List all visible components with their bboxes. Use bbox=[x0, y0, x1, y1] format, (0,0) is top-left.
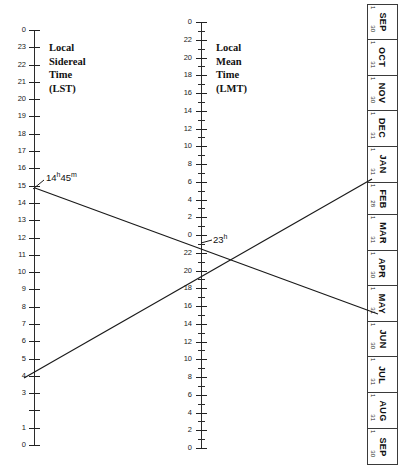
calendar-day-last: 31 bbox=[370, 168, 376, 175]
lst-tick-label: 17 bbox=[4, 147, 26, 155]
calendar-day-last: 31 bbox=[370, 237, 376, 244]
superscript-m: m bbox=[71, 171, 77, 178]
lmt-reading-annotation: 23h bbox=[213, 234, 227, 245]
lmt-tick-label: 22 bbox=[170, 36, 192, 44]
lst-tick bbox=[29, 324, 40, 325]
lmt-tick-minor bbox=[198, 404, 205, 405]
lmt-tick-major bbox=[196, 324, 207, 325]
calendar-month-cell: FEB128 bbox=[368, 183, 397, 216]
calendar-month-cell: JAN131 bbox=[368, 147, 397, 183]
lmt-tick-label: 12 bbox=[170, 125, 192, 133]
calendar-month-cell: JUL131 bbox=[368, 357, 397, 393]
lmt-tick-minor bbox=[198, 102, 205, 103]
lst-tick-label: 3 bbox=[4, 389, 26, 397]
lst-reading-annotation: 14h45m bbox=[46, 172, 77, 183]
calendar-day-first: 1 bbox=[370, 184, 376, 187]
superscript-h: h bbox=[57, 171, 61, 178]
calendar-month-cell: MAY131 bbox=[368, 286, 397, 322]
lmt-tick-major bbox=[196, 111, 207, 112]
lmt-tick-minor bbox=[198, 297, 205, 298]
calendar-month-name: MAR bbox=[368, 215, 397, 250]
lst-tick bbox=[29, 203, 40, 204]
lmt-tick-minor bbox=[198, 262, 205, 263]
lmt-tick-label: 2 bbox=[170, 426, 192, 434]
calendar-month-name: JUN bbox=[368, 322, 397, 356]
lmt-tick-minor bbox=[198, 66, 205, 67]
lmt-tick-minor bbox=[198, 279, 205, 280]
lmt-tick-label: 8 bbox=[170, 160, 192, 168]
calendar-month-name: APR bbox=[368, 251, 397, 285]
lmt-tick-major bbox=[196, 129, 207, 130]
lst-tick bbox=[29, 410, 40, 411]
lmt-tick-minor bbox=[198, 333, 205, 334]
lmt-tick-major bbox=[196, 253, 207, 254]
lst-tick-label: 20 bbox=[4, 95, 26, 103]
lst-tick bbox=[29, 82, 40, 83]
lmt-tick-major bbox=[196, 413, 207, 414]
calendar-month-cell: NOV130 bbox=[368, 76, 397, 111]
lmt-tick-label: 16 bbox=[170, 302, 192, 310]
lmt-tick-minor bbox=[198, 191, 205, 192]
lmt-tick-major bbox=[196, 395, 207, 396]
lmt-tick-major bbox=[196, 58, 207, 59]
lmt-tick-minor bbox=[198, 439, 205, 440]
lmt-tick-minor bbox=[198, 49, 205, 50]
calendar-month-cell: MAR131 bbox=[368, 215, 397, 251]
calendar-month-name: JUL bbox=[368, 357, 397, 392]
lst-tick-label: 0 bbox=[4, 441, 26, 449]
lst-tick bbox=[29, 376, 40, 377]
lst-tick bbox=[29, 168, 40, 169]
lst-tick bbox=[29, 186, 40, 187]
lst-tick-label: 23 bbox=[4, 43, 26, 51]
lmt-caption: Local Mean Time (LMT) bbox=[216, 41, 286, 95]
lmt-tick-major bbox=[196, 448, 207, 449]
lmt-tick-major bbox=[196, 200, 207, 201]
lst-tick bbox=[29, 151, 40, 152]
calendar-day-first: 1 bbox=[370, 41, 376, 44]
lst-tick-label: 15 bbox=[4, 182, 26, 190]
calendar-day-last: 30 bbox=[370, 342, 376, 349]
lmt-tick-label: 0 bbox=[170, 444, 192, 452]
lst-tick-label: 10 bbox=[4, 268, 26, 276]
calendar-month-cell: JUN130 bbox=[368, 322, 397, 357]
lmt-tick-major bbox=[196, 182, 207, 183]
superscript-h: h bbox=[224, 233, 228, 240]
lst-tick-label: 21 bbox=[4, 78, 26, 86]
lst-tick-label: 22 bbox=[4, 61, 26, 69]
calendar-day-last: 28 bbox=[370, 201, 376, 208]
lst-tick-label: 4 bbox=[4, 372, 26, 380]
lmt-tick-major bbox=[196, 377, 207, 378]
lst-tick-label: 0 bbox=[4, 26, 26, 34]
lst-tick bbox=[29, 220, 40, 221]
calendar-day-last: 31 bbox=[370, 308, 376, 315]
calendar-month-name: AUG bbox=[368, 393, 397, 428]
lmt-tick-label: 20 bbox=[170, 267, 192, 275]
lmt-tick-label: 4 bbox=[170, 196, 192, 204]
lst-tick bbox=[29, 134, 40, 135]
lmt-tick-label: 6 bbox=[170, 391, 192, 399]
lst-tick-label: 19 bbox=[4, 112, 26, 120]
lmt-tick-label: 10 bbox=[170, 355, 192, 363]
lmt-tick-major bbox=[196, 164, 207, 165]
lst-tick-label: 14 bbox=[4, 199, 26, 207]
calendar-month-cell: APR130 bbox=[368, 251, 397, 286]
lst-tick bbox=[29, 428, 40, 429]
calendar-day-last: 31 bbox=[370, 132, 376, 139]
lmt-tick-minor bbox=[198, 386, 205, 387]
calendar-month-name: SEP bbox=[368, 429, 397, 464]
calendar-day-last: 31 bbox=[370, 378, 376, 385]
lmt-scale: 022201816141210864202220181614121086420 … bbox=[160, 0, 300, 471]
lmt-tick-major bbox=[196, 430, 207, 431]
lst-tick bbox=[29, 307, 40, 308]
lmt-tick-minor bbox=[198, 315, 205, 316]
calendar-day-first: 1 bbox=[370, 323, 376, 326]
calendar-day-first: 1 bbox=[370, 287, 376, 290]
lmt-tick-minor bbox=[198, 208, 205, 209]
lmt-tick-label: 22 bbox=[170, 249, 192, 257]
calendar-month-cell: SEP130 bbox=[368, 429, 397, 464]
lmt-tick-major bbox=[196, 342, 207, 343]
lst-tick bbox=[29, 47, 40, 48]
lmt-tick-minor bbox=[198, 155, 205, 156]
lst-caption: Local Sidereal Time (LST) bbox=[49, 41, 115, 95]
lst-tick-label: 11 bbox=[4, 251, 26, 259]
